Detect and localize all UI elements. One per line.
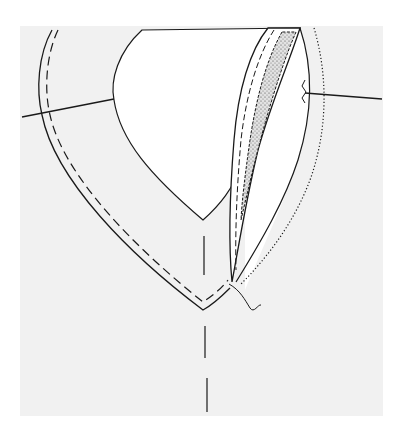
- v-neck-facing-diagram: [0, 0, 397, 448]
